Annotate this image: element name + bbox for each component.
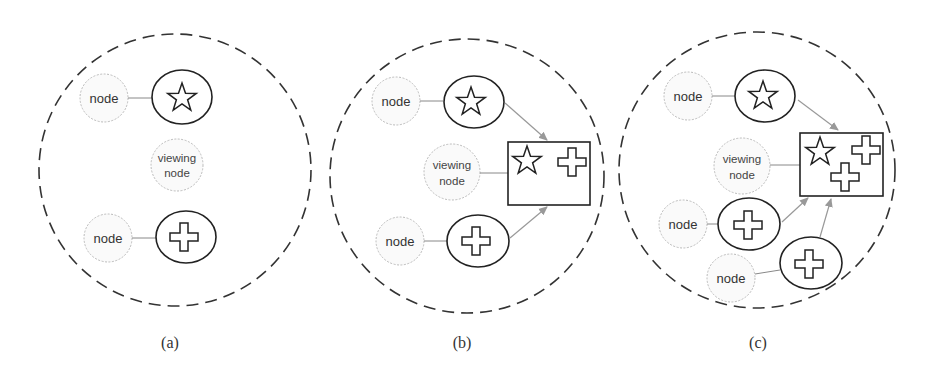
viewing-node-label-line1: viewing bbox=[158, 152, 196, 164]
viewing-node bbox=[424, 144, 480, 200]
peer-node-label: node bbox=[674, 89, 703, 104]
viewing-node-label-line1: viewing bbox=[433, 159, 471, 171]
peer-node-label: node bbox=[669, 217, 698, 232]
resource-cross bbox=[156, 211, 216, 263]
viewing-node-label-line2: node bbox=[729, 169, 755, 181]
panel-a: node viewing node node (a) bbox=[39, 34, 311, 352]
resource-star bbox=[152, 70, 212, 124]
peer-node-label: node bbox=[382, 94, 411, 109]
diagram-canvas: node viewing node node (a) node viewing … bbox=[0, 0, 934, 371]
viewing-node-label-line2: node bbox=[164, 167, 190, 179]
panel-caption: (c) bbox=[749, 334, 767, 352]
resource-star bbox=[444, 76, 504, 128]
transfer-arrow bbox=[820, 199, 831, 237]
panel-b: node viewing node node (b) bbox=[330, 39, 604, 352]
transfer-arrow bbox=[798, 100, 838, 130]
viewing-node-label-line2: node bbox=[439, 175, 465, 187]
panel-c: node viewing node node node (c) bbox=[619, 32, 895, 352]
resource-cross bbox=[780, 237, 842, 289]
resource-cross bbox=[718, 198, 780, 250]
panel-caption: (b) bbox=[453, 334, 472, 352]
viewing-node bbox=[151, 139, 203, 191]
peer-node-label: node bbox=[94, 231, 123, 246]
viewing-node-label-line1: viewing bbox=[723, 153, 761, 165]
peer-node-label: node bbox=[717, 271, 746, 286]
resource-star bbox=[735, 70, 795, 122]
transfer-arrow bbox=[510, 207, 547, 238]
panel-caption: (a) bbox=[161, 334, 179, 352]
peer-node-label: node bbox=[386, 234, 415, 249]
transfer-arrow bbox=[505, 103, 547, 140]
viewing-node bbox=[714, 138, 770, 194]
resource-cross bbox=[447, 215, 509, 267]
local-cache-box bbox=[508, 142, 590, 205]
transfer-arrow bbox=[782, 198, 808, 222]
peer-node-label: node bbox=[90, 91, 119, 106]
